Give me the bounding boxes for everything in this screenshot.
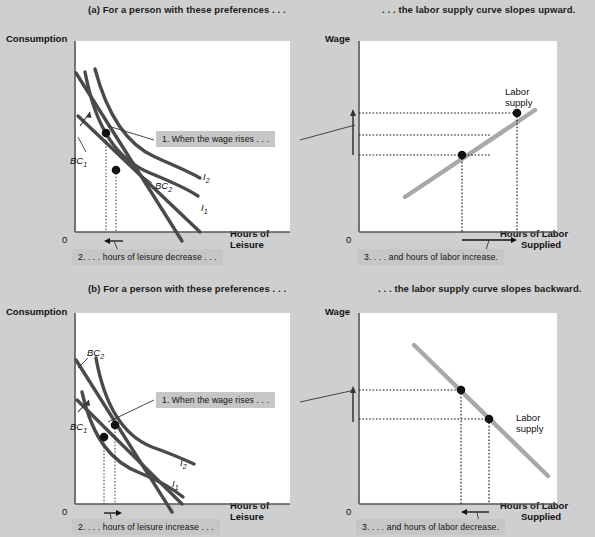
panel-b-right-supply-label-1: Labor [516,412,543,423]
panel-b-right-callout-labor-decrease: 3. . . . and hours of labor decrease. [356,519,505,535]
panel-b-right-supply-label-2: supply [516,423,543,434]
panel-b-right-graphics [0,0,595,537]
panel-b-right-supply-label: Labor supply [516,412,543,434]
figure-container: (a) For a person with these preferences … [0,0,595,537]
